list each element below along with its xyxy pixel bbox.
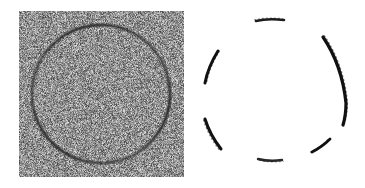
arc-fragments-plot [196, 11, 361, 177]
noisy-circle-image [19, 11, 184, 177]
arc-panel-background [196, 11, 361, 177]
figure-canvas [0, 0, 365, 188]
arc-fragments-output-panel [196, 11, 361, 177]
noisy-input-image-panel [19, 11, 184, 177]
